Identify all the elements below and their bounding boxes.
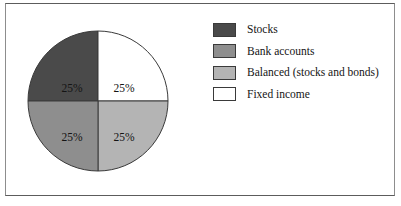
pie-chart: 25% 25% 25% 25%	[27, 30, 169, 172]
legend-swatch-fixed-income	[213, 87, 236, 101]
legend-item-stocks: Stocks	[213, 19, 393, 41]
legend-label-stocks: Stocks	[247, 24, 278, 36]
legend-label-fixed-income: Fixed income	[247, 89, 310, 101]
chart-legend: Stocks Bank accounts Balanced (stocks an…	[213, 19, 393, 105]
legend-label-bank-accounts: Bank accounts	[247, 46, 314, 58]
pie-svg: 25% 25% 25% 25%	[27, 30, 169, 172]
legend-swatch-bank-accounts	[213, 44, 236, 58]
figure-frame: 25% 25% 25% 25% Stocks Bank accounts Bal…	[5, 3, 395, 196]
pie-label-fixed-income: 25%	[113, 82, 135, 94]
pie-label-balanced: 25%	[113, 131, 135, 143]
legend-label-balanced: Balanced (stocks and bonds)	[247, 67, 379, 79]
legend-item-fixed-income: Fixed income	[213, 84, 393, 106]
legend-item-bank-accounts: Bank accounts	[213, 41, 393, 63]
pie-label-bank-accounts: 25%	[61, 131, 83, 143]
legend-swatch-balanced	[213, 66, 236, 80]
legend-swatch-stocks	[213, 23, 236, 37]
legend-item-balanced: Balanced (stocks and bonds)	[213, 62, 393, 84]
pie-label-stocks: 25%	[61, 82, 83, 94]
